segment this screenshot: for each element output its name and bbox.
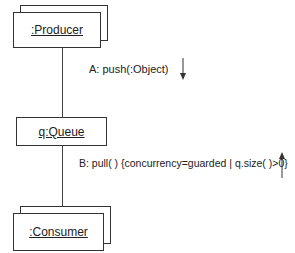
- arrow-down-icon: [180, 58, 186, 80]
- arrow-up-icon: [279, 152, 285, 178]
- arrows-layer: [0, 0, 295, 253]
